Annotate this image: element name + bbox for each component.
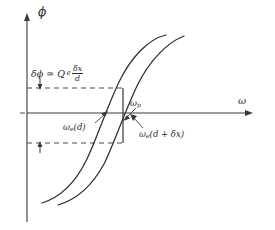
delta-phi-fraction-numerator: δx [72, 65, 83, 74]
delta-phi-symbol: δϕ [31, 69, 43, 79]
delta-phi-fraction: δx d [72, 65, 83, 83]
curve-omega-e-d [42, 35, 166, 203]
delta-phi-coefficient-subscript: e [66, 70, 70, 77]
omega-e-ddx-label: ωe(d + δx) [139, 130, 184, 139]
delta-phi-upper-tick-arrowhead [38, 84, 43, 90]
x-axis-label: ω [238, 96, 246, 106]
delta-phi-equation: δϕ ≃ Qe δx d [31, 65, 83, 83]
delta-phi-fraction-denominator: d [74, 74, 81, 82]
delta-phi-lower-tick-arrowhead [38, 141, 43, 147]
omega-e-d-label: ωe(d) [63, 123, 86, 132]
y-axis-arrowhead [24, 13, 30, 21]
omega-p-symbol: ω [130, 98, 137, 108]
x-axis-arrowhead [245, 110, 253, 116]
figure-canvas [0, 0, 275, 230]
omega-p-label: ωp [130, 99, 141, 108]
delta-phi-operator: ≃ [45, 69, 56, 79]
omega-e-d-symbol: ω [63, 122, 70, 132]
y-axis-label: ϕ [38, 6, 46, 18]
delta-phi-coefficient: Q [57, 69, 65, 79]
omega-e-ddx-argument: (d + δx) [150, 129, 185, 139]
omega-e-ddx-symbol: ω [139, 129, 146, 139]
omega-p-subscript: p [137, 101, 141, 108]
curve-omega-e-d-plus-dx [58, 36, 184, 205]
figure-container: ϕ ω δϕ ≃ Qe δx d ωp ωe(d) ωe(d + δx) [0, 0, 275, 230]
omega-e-d-argument: (d) [74, 122, 86, 132]
